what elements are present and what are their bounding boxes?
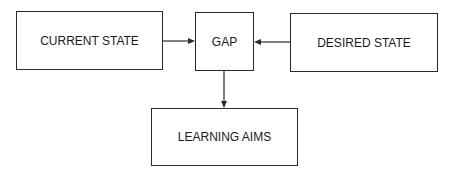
gap-label: GAP xyxy=(212,35,237,49)
current-state-box: CURRENT STATE xyxy=(16,11,163,70)
desired-state-box: DESIRED STATE xyxy=(290,13,438,72)
learning-aims-box: LEARNING AIMS xyxy=(151,108,298,166)
current-state-label: CURRENT STATE xyxy=(40,34,139,48)
desired-state-label: DESIRED STATE xyxy=(317,36,411,50)
learning-aims-label: LEARNING AIMS xyxy=(178,130,271,144)
gap-box: GAP xyxy=(195,12,254,71)
